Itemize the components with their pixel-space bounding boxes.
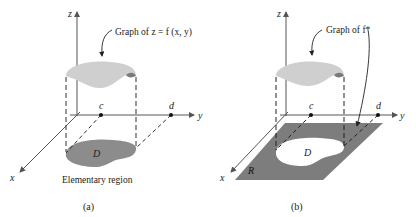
callout-arrow-surface [312,30,322,55]
point-d [376,113,380,117]
callout-text: Graph of z = f (x, y) [115,27,192,38]
region-d-label: D [92,148,101,159]
panel-b: z y x c d Graph of f* D R (b) [219,8,405,213]
panel-b-label: (b) [291,201,303,213]
panel-a-label: (a) [83,201,94,213]
z-axis-label: z [67,8,72,19]
point-c-label: c [309,100,314,111]
rect-r-label: R [247,165,254,176]
point-d [169,113,173,117]
point-c [99,113,103,117]
y-axis-label: y [399,110,405,121]
region-d [66,139,136,167]
point-d-label: d [169,100,175,111]
point-d-label: d [376,100,382,111]
point-c [309,113,313,117]
caption-elementary-region: Elementary region [62,175,133,185]
callout-text: Graph of f* [326,25,371,35]
diagram-canvas: z y x c d Graph of z = f (x, y) D Elemen… [0,0,416,217]
x-axis [20,112,80,172]
callout-arrow [102,30,112,56]
panel-a: z y x c d Graph of z = f (x, y) D Elemen… [9,8,203,213]
x-axis-label: x [9,172,15,183]
x-axis-label: x [219,172,225,183]
region-d-label: D [303,147,312,158]
z-axis-label: z [276,8,281,19]
y-axis-label: y [197,110,203,121]
callout-arrow-rect [357,30,369,126]
point-c-label: c [99,100,104,111]
dashed-d [136,115,171,148]
